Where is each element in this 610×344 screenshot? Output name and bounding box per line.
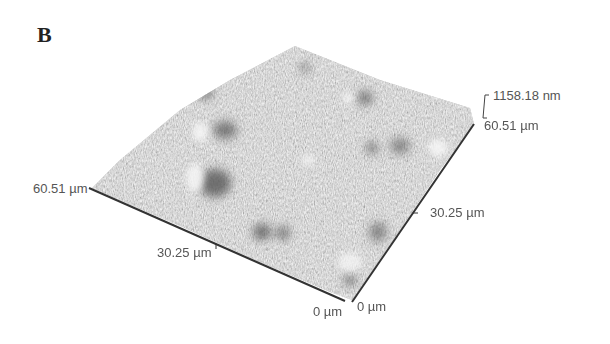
x-axis-max-label: 60.51 µm <box>33 181 87 196</box>
x-axis-mid-label: 30.25 µm <box>157 245 211 260</box>
z-scale-bracket <box>483 95 489 118</box>
afm-surface-plot <box>0 0 610 344</box>
y-axis-min-label: 0 µm <box>357 299 386 314</box>
y-axis-mid-label: 30.25 µm <box>430 205 484 220</box>
y-axis-max-label: 60.51 µm <box>484 118 538 133</box>
x-axis-min-label: 0 µm <box>313 304 342 319</box>
z-range-label: 1158.18 nm <box>493 88 561 103</box>
surface-texture <box>80 40 490 310</box>
